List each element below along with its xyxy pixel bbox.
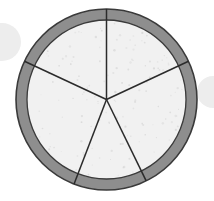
topping-speck: [133, 108, 135, 110]
topping-speck: [71, 61, 72, 62]
topping-speck: [124, 125, 126, 127]
topping-speck: [40, 94, 41, 95]
topping-speck: [145, 65, 146, 66]
topping-speck: [125, 47, 127, 49]
topping-speck: [100, 40, 101, 41]
topping-speck: [134, 101, 136, 103]
topping-speck: [177, 126, 179, 128]
topping-speck: [138, 89, 140, 91]
topping-speck: [80, 140, 82, 142]
topping-speck: [88, 85, 90, 87]
topping-speck: [95, 36, 97, 38]
ghost-arc-right: [197, 76, 214, 108]
topping-speck: [162, 69, 164, 71]
topping-speck: [75, 169, 77, 171]
topping-speck: [144, 42, 146, 44]
ghost-arc-left: [0, 23, 21, 61]
topping-speck: [88, 174, 90, 176]
topping-speck: [81, 121, 83, 123]
topping-speck: [105, 112, 107, 114]
topping-speck: [145, 90, 147, 92]
topping-speck: [177, 87, 179, 89]
topping-speck: [152, 124, 153, 125]
topping-speck: [58, 65, 60, 67]
topping-speck: [164, 55, 165, 56]
topping-speck: [38, 110, 40, 112]
topping-speck: [145, 134, 147, 136]
topping-speck: [65, 55, 67, 57]
topping-speck: [83, 91, 85, 93]
topping-speck: [157, 67, 159, 69]
topping-speck: [99, 47, 101, 49]
topping-speck: [119, 34, 121, 36]
topping-speck: [99, 60, 101, 62]
topping-speck: [162, 60, 163, 61]
topping-speck: [156, 137, 157, 138]
topping-speck: [112, 72, 114, 74]
topping-speck: [127, 69, 129, 71]
topping-speck: [97, 101, 99, 103]
topping-speck: [114, 23, 116, 25]
topping-speck: [76, 79, 78, 81]
topping-speck: [81, 32, 82, 33]
topping-speck: [128, 158, 130, 160]
topping-speck: [123, 166, 125, 168]
topping-speck: [72, 98, 73, 99]
topping-speck: [73, 56, 75, 58]
topping-speck: [111, 150, 113, 152]
topping-speck: [116, 39, 118, 41]
topping-speck: [100, 28, 101, 29]
topping-speck: [61, 151, 62, 152]
figure-canvas: [0, 0, 214, 201]
topping-speck: [99, 91, 100, 92]
topping-speck: [115, 101, 117, 103]
topping-speck: [157, 61, 159, 63]
topping-speck: [139, 141, 140, 142]
topping-speck: [132, 171, 133, 172]
topping-speck: [69, 45, 71, 47]
topping-speck: [158, 106, 159, 107]
topping-speck: [162, 122, 164, 124]
topping-speck: [181, 89, 182, 90]
topping-speck: [107, 74, 109, 76]
topping-speck: [49, 133, 50, 134]
topping-speck: [149, 61, 151, 63]
topping-speck: [87, 87, 88, 88]
topping-speck: [165, 118, 166, 119]
topping-speck: [78, 75, 80, 77]
topping-speck: [82, 94, 83, 95]
topping-speck: [168, 63, 169, 64]
topping-speck: [70, 63, 72, 65]
topping-speck: [175, 92, 176, 93]
topping-speck: [78, 31, 80, 33]
topping-speck: [110, 159, 111, 160]
topping-speck: [120, 143, 122, 145]
topping-speck: [127, 135, 128, 136]
topping-speck: [50, 146, 51, 147]
topping-speck: [180, 80, 181, 81]
topping-speck: [169, 139, 170, 140]
topping-speck: [166, 57, 167, 58]
topping-speck: [86, 99, 87, 100]
topping-speck: [103, 81, 105, 83]
topping-speck: [129, 61, 131, 63]
topping-speck: [146, 35, 148, 37]
topping-speck: [171, 121, 173, 123]
topping-speck: [178, 109, 179, 110]
topping-speck: [141, 32, 143, 34]
topping-speck: [129, 39, 131, 41]
topping-speck: [141, 123, 143, 125]
topping-speck: [39, 136, 40, 137]
topping-speck: [101, 30, 103, 32]
topping-speck: [153, 67, 155, 69]
topping-speck: [114, 99, 116, 101]
topping-speck: [108, 121, 109, 122]
topping-speck: [175, 129, 177, 131]
topping-speck: [135, 45, 136, 46]
topping-speck: [77, 155, 78, 156]
topping-speck: [99, 157, 101, 159]
topping-speck: [175, 115, 177, 117]
topping-speck: [92, 165, 93, 166]
topping-speck: [52, 81, 54, 83]
topping-speck: [83, 152, 85, 154]
